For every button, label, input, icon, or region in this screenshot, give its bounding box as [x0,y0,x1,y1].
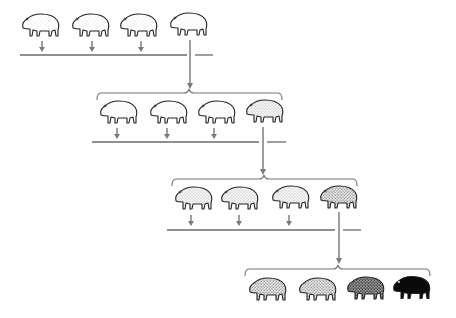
animal-icon-light [250,278,286,300]
arrow-down-icon [89,47,95,52]
arrow-down-icon [188,221,194,226]
animal-icon-selected [247,100,283,122]
offspring-brace [97,89,282,100]
animal-icon [176,187,212,209]
arrow-down-icon [187,83,193,89]
animal-icon [222,187,258,209]
arrow-down-icon [211,134,217,139]
animal-icon [101,101,137,123]
animal-icon [151,101,187,123]
arrow-down-icon [138,47,144,52]
arrow-down-icon [236,221,242,226]
animal-icon [73,14,109,36]
animal-icon [23,14,59,36]
arrow-down-icon [164,134,170,139]
arrow-down-icon [260,169,266,175]
arrow-down-icon [39,47,45,52]
selection-diagram [0,0,456,318]
arrow-down-icon [286,221,292,226]
offspring-brace [172,175,357,186]
animal-icon [121,14,157,36]
animal-icon-medium [300,278,336,300]
generation-3 [167,175,361,264]
elimination-arrows [188,215,292,226]
elimination-arrows [39,41,144,52]
arrow-down-icon [336,258,342,264]
animal-icon [273,186,309,208]
animal-icon-black [394,277,430,299]
animal-icon-dark [348,277,384,299]
generation-1 [20,13,213,89]
animal-icon [199,101,235,123]
arrow-down-icon [114,134,120,139]
offspring-brace [245,265,430,276]
elimination-arrows [114,128,217,139]
generation-4 [245,265,430,300]
generation-2 [92,89,286,175]
animal-icon-selected [171,13,207,35]
animal-icon-selected [321,186,357,208]
